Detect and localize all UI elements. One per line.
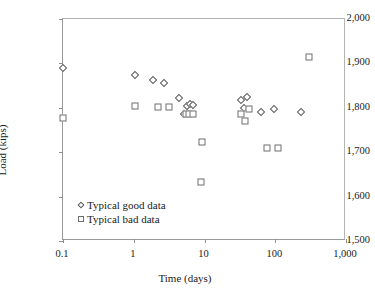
data-point-square xyxy=(165,103,172,110)
x-tick-label: 0.1 xyxy=(32,248,92,259)
data-point-square xyxy=(189,111,196,118)
data-point-square xyxy=(241,118,248,125)
data-point-diamond xyxy=(149,76,157,84)
data-point-diamond xyxy=(297,108,305,116)
data-point-diamond xyxy=(160,79,168,87)
x-tick-mark xyxy=(63,239,64,243)
x-tick-mark xyxy=(275,239,276,243)
x-axis-title: Time (days) xyxy=(0,272,370,284)
data-point-diamond xyxy=(256,108,264,116)
x-tick-label: 1 xyxy=(103,248,163,259)
y-tick-mark xyxy=(59,108,63,109)
legend-item-label: Typical bad data xyxy=(87,213,160,226)
legend-item-0: Typical good data xyxy=(74,198,166,212)
data-point-diamond xyxy=(131,71,139,79)
data-point-diamond xyxy=(269,105,277,113)
data-point-square xyxy=(245,106,252,113)
data-point-diamond xyxy=(59,64,67,72)
x-tick-mark xyxy=(134,239,135,243)
x-tick-label: 100 xyxy=(244,248,304,259)
x-tick-mark xyxy=(346,239,347,243)
y-tick-mark xyxy=(59,197,63,198)
data-point-diamond xyxy=(174,94,182,102)
y-axis-title-text: Load (kips) xyxy=(0,124,8,175)
data-point-square xyxy=(154,103,161,110)
data-point-square xyxy=(264,144,271,151)
data-point-square xyxy=(198,178,205,185)
data-point-square xyxy=(60,114,67,121)
legend-item-label: Typical good data xyxy=(87,199,166,212)
data-point-square xyxy=(238,111,245,118)
x-tick-label: 1,000 xyxy=(315,248,375,259)
x-tick-label: 10 xyxy=(174,248,234,259)
data-point-square xyxy=(199,139,206,146)
y-axis-title: Load (kips) xyxy=(0,124,8,175)
x-tick-mark xyxy=(205,239,206,243)
x-axis-title-text: Time (days) xyxy=(158,272,211,284)
data-point-square xyxy=(306,53,313,60)
legend-square-icon xyxy=(74,213,87,226)
legend-item-1: Typical bad data xyxy=(74,212,166,226)
chart-legend: Typical good dataTypical bad data xyxy=(72,196,170,228)
data-point-square xyxy=(275,144,282,151)
y-tick-mark xyxy=(59,152,63,153)
data-point-square xyxy=(132,103,139,110)
legend-diamond-icon xyxy=(74,199,87,212)
y-tick-mark xyxy=(59,19,63,20)
